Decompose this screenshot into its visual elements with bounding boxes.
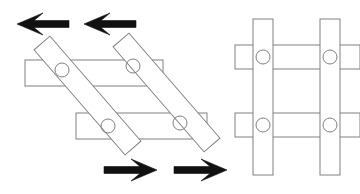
diagram-canvas <box>0 0 360 194</box>
orthogonal-lattice-left-vertical-bar <box>253 19 273 175</box>
orthogonal-lattice-right-vertical-bar <box>320 19 340 175</box>
lattice-shear-diagram <box>0 0 360 194</box>
